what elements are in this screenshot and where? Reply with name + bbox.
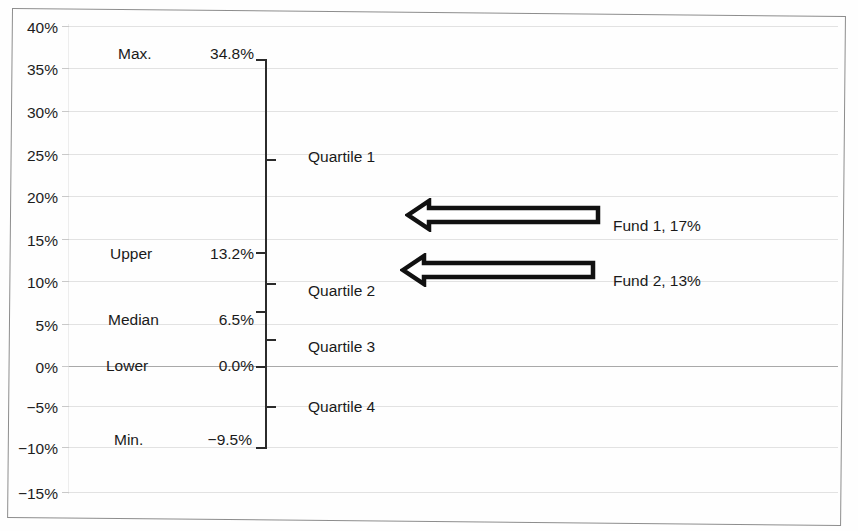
boxplot-tick-median: [256, 311, 265, 313]
axis-tick-neg15: [62, 492, 69, 493]
fund-2-arrow-icon: [400, 253, 596, 287]
y-tick-label-neg10: −10%: [0, 441, 58, 457]
y-tick-label-0: 0%: [0, 360, 58, 376]
axis-tick-neg5: [62, 406, 69, 407]
y-tick-label-20: 20%: [0, 190, 58, 206]
axis-tick-25: [62, 154, 69, 155]
stat-label-upper: Upper: [110, 246, 152, 262]
axis-tick-10: [62, 281, 69, 282]
y-tick-label-25: 25%: [0, 148, 58, 164]
axis-tick-0: [62, 366, 69, 367]
boxplot-tick-upper: [256, 252, 265, 254]
y-tick-label-35: 35%: [0, 62, 58, 78]
stat-value-min: −9.5%: [180, 432, 252, 448]
gridline-25: [68, 154, 838, 155]
quartile-label-4: Quartile 4: [308, 399, 375, 415]
boxplot-tick-quartile-4: [267, 406, 276, 408]
axis-tick-30: [62, 111, 69, 112]
fund-2-label: Fund 2, 13%: [613, 273, 701, 289]
stat-label-max: Max.: [118, 46, 152, 62]
gridline-40: [68, 26, 838, 27]
gridline-15: [68, 239, 838, 240]
y-tick-label-neg5: −5%: [0, 400, 58, 416]
axis-tick-5: [62, 324, 69, 325]
axis-tick-40: [62, 26, 69, 27]
gridline-35: [68, 68, 838, 69]
gridline-20: [68, 196, 838, 197]
y-tick-label-40: 40%: [0, 20, 58, 36]
fund-1-label: Fund 1, 17%: [613, 218, 701, 234]
gridline-neg5: [68, 406, 838, 407]
plot-area: 40% 35% 30% 25% 20% 15% 10% 5% 0% −5% −1…: [0, 0, 858, 531]
gridline-30: [68, 111, 838, 112]
quartile-label-2: Quartile 2: [308, 283, 375, 299]
stat-label-lower: Lower: [106, 358, 148, 374]
fund-1-arrow-icon: [405, 198, 601, 232]
stat-value-median: 6.5%: [182, 312, 254, 328]
boxplot-tick-lower: [256, 366, 265, 368]
boxplot-tick-quartile-2: [267, 283, 276, 285]
axis-tick-neg10: [62, 447, 69, 448]
boxplot-tick-quartile-3: [267, 339, 276, 341]
boxplot-tick-quartile-1: [267, 159, 276, 161]
boxplot-spine: [265, 59, 267, 449]
y-tick-label-30: 30%: [0, 105, 58, 121]
stat-label-min: Min.: [114, 432, 143, 448]
axis-tick-15: [62, 239, 69, 240]
y-tick-label-neg15: −15%: [0, 486, 58, 502]
boxplot-max-cap: [256, 59, 267, 61]
stat-value-max: 34.8%: [182, 46, 254, 62]
chart-image: 40% 35% 30% 25% 20% 15% 10% 5% 0% −5% −1…: [0, 0, 858, 531]
boxplot-min-cap: [256, 447, 267, 449]
y-tick-label-5: 5%: [0, 318, 58, 334]
y-tick-label-15: 15%: [0, 233, 58, 249]
stat-value-upper: 13.2%: [182, 246, 254, 262]
axis-tick-20: [62, 196, 69, 197]
stat-value-lower: 0.0%: [182, 358, 254, 374]
y-tick-label-10: 10%: [0, 275, 58, 291]
axis-tick-35: [62, 68, 69, 69]
quartile-label-3: Quartile 3: [308, 339, 375, 355]
gridline-neg15: [68, 492, 838, 493]
stat-label-median: Median: [108, 312, 159, 328]
y-axis-line: [68, 24, 69, 494]
quartile-label-1: Quartile 1: [308, 149, 375, 165]
